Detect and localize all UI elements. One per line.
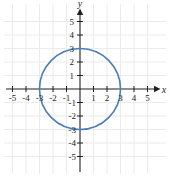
x-tick-label: 4: [132, 93, 137, 103]
y-tick-label: -3: [69, 125, 77, 135]
y-tick-label: 5: [70, 17, 75, 27]
x-tick-label: 1: [91, 93, 96, 103]
x-tick-label: 5: [145, 93, 150, 103]
x-tick-label: 2: [105, 93, 110, 103]
x-tick-label: -4: [22, 93, 30, 103]
y-axis-label: y: [77, 0, 83, 9]
y-tick-label: -5: [69, 152, 77, 162]
y-tick-label: 2: [70, 57, 75, 67]
plot-svg: -5 -4 -3 -2 -1 1 2 3 4 5 5 4 3 2 1 -1 -2…: [0, 0, 170, 177]
x-axis-label: x: [161, 84, 167, 95]
y-tick-label: -4: [69, 138, 77, 148]
coordinate-plane-figure: -5 -4 -3 -2 -1 1 2 3 4 5 5 4 3 2 1 -1 -2…: [0, 0, 170, 177]
y-tick-label: 1: [70, 71, 75, 81]
x-tick-label: -3: [36, 93, 44, 103]
y-tick-label: -1: [69, 98, 77, 108]
y-tick-label: -2: [69, 111, 77, 121]
y-tick-label: 4: [70, 30, 75, 40]
x-tick-label: -2: [49, 93, 57, 103]
x-tick-label: 3: [118, 93, 123, 103]
y-tick-label: 3: [70, 44, 75, 54]
x-tick-label: -5: [9, 93, 17, 103]
